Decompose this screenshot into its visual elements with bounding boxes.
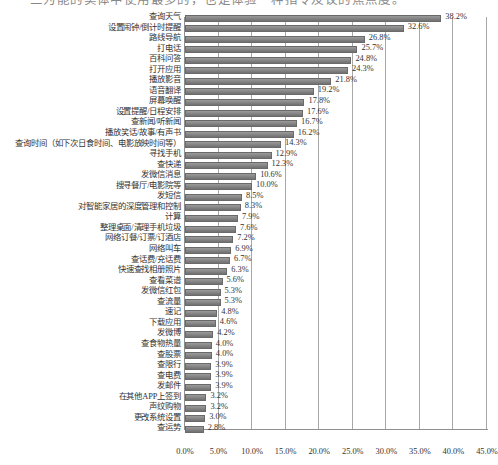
bar-category-label: 设置闹钟/倒计时提醒	[108, 23, 181, 34]
bar	[185, 415, 205, 422]
bar-value-label: 10.6%	[260, 170, 282, 181]
bar	[185, 162, 268, 169]
bar-category-label: 查流量	[157, 297, 181, 308]
bar-category-label: 发微信红包	[141, 286, 181, 297]
bar-fill	[185, 226, 236, 233]
bar-fill	[185, 15, 441, 22]
bar-fill	[185, 426, 204, 433]
bar-value-label: 3.9%	[215, 381, 232, 392]
bar-fill	[185, 342, 212, 349]
bar	[185, 247, 231, 254]
bar	[185, 57, 351, 64]
bar-row: 查新闻/听新闻16.7%	[0, 118, 497, 129]
x-tick-label: 40.0%	[443, 446, 465, 458]
bar-fill	[185, 110, 303, 117]
bar-fill	[185, 46, 357, 53]
bar-row: 速记4.8%	[0, 308, 497, 319]
bar-category-label: 查新闻/听新闻	[131, 117, 181, 128]
bar-value-label: 5.6%	[227, 275, 244, 286]
bar-fill	[185, 78, 331, 85]
bar	[185, 204, 241, 211]
bar-category-label: 在其他APP上签到	[119, 392, 181, 403]
bar-fill	[185, 67, 348, 74]
x-axis-tick-labels: 0.0%5.0%10.0%15.0%20.0%25.0%30.0%35.0%40…	[0, 446, 497, 460]
bar	[185, 183, 252, 190]
cut-off-body-text: 三为能的实体中使用最多的，也是体验一种指令及议的焦点度。	[0, 0, 497, 13]
bar-row: 快速查找相册照片6.3%	[0, 266, 497, 277]
bar-fill	[185, 36, 365, 43]
bar-fill	[185, 152, 272, 159]
bar-row: 路线导航26.8%	[0, 34, 497, 45]
bar-value-label: 7.6%	[240, 223, 257, 234]
bar-category-label: 下载应用	[149, 318, 181, 329]
bar	[185, 394, 206, 401]
bar-fill	[185, 268, 227, 275]
bar-fill	[185, 204, 241, 211]
bar	[185, 320, 216, 327]
bar-value-label: 10.0%	[256, 180, 278, 191]
bar-fill	[185, 405, 206, 412]
bar	[185, 363, 211, 370]
bar-fill	[185, 394, 206, 401]
bar-value-label: 38.2%	[445, 12, 467, 23]
bar	[185, 88, 314, 95]
bar-value-label: 12.9%	[276, 149, 298, 160]
bar	[185, 342, 212, 349]
bar-value-label: 4.2%	[217, 328, 234, 339]
bar-fill	[185, 363, 211, 370]
bar-fill	[185, 88, 314, 95]
bar-value-label: 3.9%	[215, 360, 232, 371]
bar-row: 语音翻译19.2%	[0, 87, 497, 98]
bar-fill	[185, 162, 268, 169]
bar-category-label: 路线导航	[149, 33, 181, 44]
bar-value-label: 4.6%	[220, 317, 237, 328]
bar-fill	[185, 415, 205, 422]
bar-value-label: 3.2%	[210, 402, 227, 413]
bar-row: 播放影音21.8%	[0, 76, 497, 87]
bar-category-label: 寻找手机	[149, 149, 181, 160]
bar	[185, 299, 221, 306]
bar-category-label: 屏幕唤醒	[149, 96, 181, 107]
bar	[185, 236, 233, 243]
bar-category-label: 声纹购物	[149, 402, 181, 413]
bar-row: 更改系统设置3.0%	[0, 414, 497, 425]
bar	[185, 46, 357, 53]
bar-category-label: 播放笑话/故事/有声书	[105, 128, 181, 139]
bar-fill	[185, 215, 238, 222]
bar	[185, 36, 365, 43]
bar-row: 查流量5.3%	[0, 298, 497, 309]
bar-fill	[185, 278, 223, 285]
bar	[185, 384, 211, 391]
bar-row: 发微博4.2%	[0, 329, 497, 340]
bar	[185, 226, 236, 233]
bar-value-label: 16.2%	[298, 128, 320, 139]
bar-category-label: 发邮件	[157, 381, 181, 392]
bar-fill	[185, 236, 233, 243]
bar-fill	[185, 131, 294, 138]
bar-fill	[185, 310, 217, 317]
bar-category-label: 设置提醒/日程安排	[116, 107, 181, 118]
bar	[185, 110, 303, 117]
bar-category-label: 查电费	[157, 371, 181, 382]
bar-row: 设置提醒/日程安排17.6%	[0, 108, 497, 119]
bar-row: 查快递12.3%	[0, 161, 497, 172]
bar	[185, 257, 230, 264]
bar-value-label: 17.6%	[307, 107, 329, 118]
bar-value-label: 6.7%	[234, 254, 251, 265]
bar-category-label: 查运势	[157, 423, 181, 434]
bar-category-label: 播放影音	[149, 75, 181, 86]
x-tick-label: 30.0%	[376, 446, 398, 458]
bar	[185, 331, 213, 338]
bar-category-label: 打开应用	[149, 65, 181, 76]
bar-category-label: 对智能家居的深度管理和控制	[78, 202, 181, 213]
bar-category-label: 打电话	[157, 44, 181, 55]
x-tick-label: 45.0%	[476, 446, 498, 458]
bar	[185, 289, 221, 296]
x-tick-label: 0.0%	[176, 446, 193, 458]
bar-rows: 查询天气38.2%设置闹钟/倒计时提醒32.6%路线导航26.8%打电话25.7…	[0, 13, 497, 435]
bar-value-label: 6.3%	[231, 265, 248, 276]
bar	[185, 278, 223, 285]
bar-row: 打电话25.7%	[0, 45, 497, 56]
bar-value-label: 3.9%	[215, 370, 232, 381]
bar-category-label: 计算	[165, 212, 181, 223]
